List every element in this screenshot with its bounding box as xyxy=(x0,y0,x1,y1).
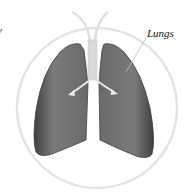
pointer-line-icon xyxy=(126,38,146,72)
airway-curve-left xyxy=(72,12,90,42)
lungs-diagram: y Lungs xyxy=(0,0,183,196)
lungs-label: Lungs xyxy=(147,27,174,39)
right-lung xyxy=(99,44,154,158)
partial-label: y xyxy=(0,24,2,36)
left-lung xyxy=(34,44,88,156)
trachea-icon xyxy=(88,40,97,80)
